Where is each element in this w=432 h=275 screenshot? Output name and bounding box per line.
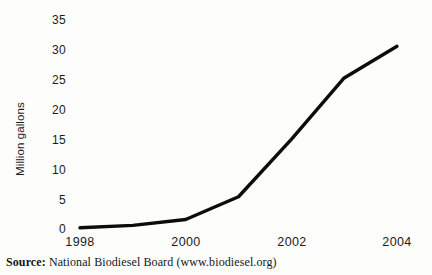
chart-figure: Million gallons 35 30 25 20 15 10 5 0 19… (0, 0, 432, 275)
x-tick-label-2002: 2002 (262, 236, 322, 249)
x-tick-label-1998: 1998 (50, 236, 110, 249)
source-label: Source: (6, 255, 46, 269)
source-text: National Biodiesel Board (www.biodiesel.… (46, 255, 277, 269)
plot-area (0, 0, 432, 258)
data-series-line (80, 46, 397, 228)
x-tick-label-2004: 2004 (367, 236, 427, 249)
x-tick-label-2000: 2000 (156, 236, 216, 249)
source-caption: Source: National Biodiesel Board (www.bi… (6, 255, 277, 270)
